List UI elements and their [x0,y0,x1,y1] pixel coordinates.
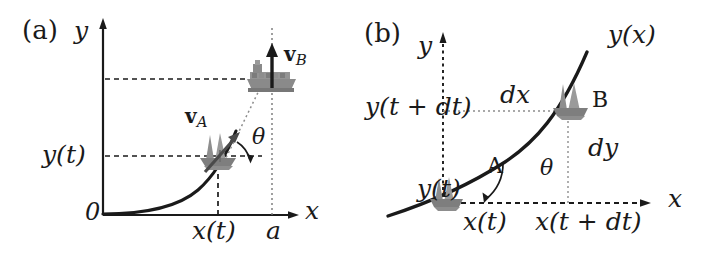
panel-a-pursuit-curve [103,131,236,214]
panel-a-y-tick-label: y(t) [42,142,86,167]
panel-b-y-upper-label: y(t + dt) [365,94,472,119]
panel-b-x-axis [443,199,651,206]
panel-a-y-axis [99,18,107,215]
panel-a-velocity-b-symbol: v [284,42,296,66]
panel-a-velocity-b-subscript: B [296,51,307,69]
panel-b-dx-label: dx [500,82,530,107]
panel-b-dy-label: dy [588,135,618,160]
panel-a-y-axis-label: y [74,18,88,43]
panel-a-x-target-label: a [266,218,281,243]
figure-root: (a) y x 0 y(t) x(t) a vA vB θ [0,0,710,256]
panel-b-x-lower-label: x(t) [463,209,507,234]
panel-a-tag: (a) [22,17,58,43]
panel-a-x-tick-label: x(t) [192,218,236,243]
panel-b-y-axis-label: y [418,33,432,58]
panel-a-velocity-b-label: vB [284,44,307,68]
panel-a-velocity-a-symbol: v [185,104,197,128]
panel-b-angle-label: θ [540,157,553,179]
panel-a-x-axis-label: x [305,198,319,223]
panel-b-point-a-label: A [487,155,503,177]
panel-a-velocity-a-subscript: A [197,113,208,131]
panel-b-point-b-label: B [592,89,608,111]
panel-b-y-lower-label: y(t) [417,176,461,201]
panel-b-curve-label: y(x) [608,22,656,47]
panel-b-x-upper-label: x(t + dt) [535,209,642,234]
panel-b-tag: (b) [364,20,401,46]
panel-a-origin-label: 0 [85,200,100,224]
panel-a-angle-label: θ [252,126,265,148]
panel-b-x-axis-label: x [668,186,682,211]
panel-a-velocity-a-label: vA [185,106,207,130]
panel-b-graphic [355,0,710,256]
